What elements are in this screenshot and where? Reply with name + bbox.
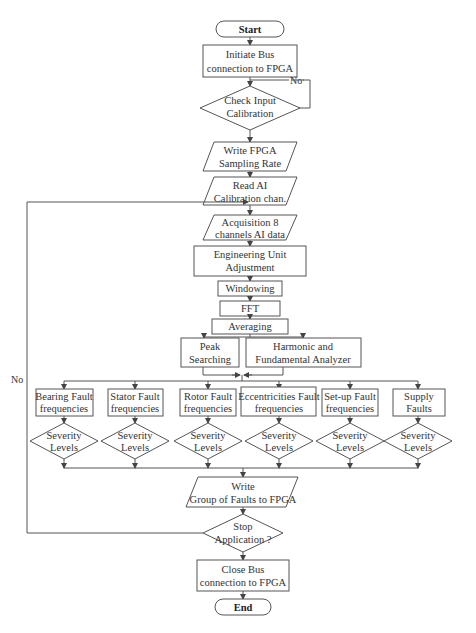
svg-text:frequencies: frequencies — [255, 403, 303, 414]
stop-application-decision: Stop Application ? — [203, 514, 283, 552]
svg-text:frequencies: frequencies — [111, 403, 159, 414]
svg-text:Set-up Fault: Set-up Fault — [324, 391, 376, 402]
write-group-faults-io: Write Group of Faults to FPGA — [186, 477, 298, 507]
svg-text:Searching: Searching — [189, 354, 232, 365]
svg-text:Adjustment: Adjustment — [226, 262, 275, 273]
svg-text:Bearing Fault: Bearing Fault — [35, 391, 93, 402]
svg-text:frequencies: frequencies — [326, 403, 374, 414]
svg-text:Fundamental Analyzer: Fundamental Analyzer — [255, 354, 351, 365]
harmonic-analyzer-box: Harmonic and Fundamental Analyzer — [246, 338, 361, 367]
svg-text:Group of Faults to FPGA: Group of Faults to FPGA — [190, 494, 297, 505]
end-terminal: End — [215, 599, 271, 615]
svg-text:Harmonic and: Harmonic and — [273, 341, 334, 352]
svg-text:Supply: Supply — [404, 391, 435, 402]
svg-text:Levels: Levels — [50, 442, 78, 453]
svg-text:channels AI data: channels AI data — [215, 229, 285, 240]
svg-text:Faults: Faults — [406, 403, 432, 414]
svg-text:Initiate Bus: Initiate Bus — [226, 49, 275, 60]
svg-text:Check Input: Check Input — [224, 95, 276, 106]
read-ai-calibration-io: Read AI Calibration chan. — [203, 177, 297, 205]
svg-text:Severity: Severity — [262, 430, 298, 441]
flowchart: Start Initiate Bus connection to FPGA No… — [0, 0, 476, 633]
svg-text:frequencies: frequencies — [40, 403, 88, 414]
svg-text:Stop: Stop — [233, 521, 252, 532]
svg-text:Eccentricities Fault: Eccentricities Fault — [238, 391, 319, 402]
svg-text:Application ?: Application ? — [215, 534, 272, 545]
severity-decision-bearing: Severity Levels — [30, 423, 98, 459]
svg-text:Severity: Severity — [333, 430, 369, 441]
severity-decision-rotor: Severity Levels — [174, 423, 242, 459]
svg-text:Peak: Peak — [200, 341, 221, 352]
svg-text:Levels: Levels — [121, 442, 149, 453]
fault-eccentricities-box: Eccentricities Fault frequencies — [238, 387, 319, 416]
write-sampling-rate-io: Write FPGA Sampling Rate — [203, 142, 297, 171]
svg-text:Severity: Severity — [118, 430, 154, 441]
svg-text:End: End — [234, 602, 253, 613]
close-bus-box: Close Bus connection to FPGA — [197, 560, 289, 591]
svg-text:Calibration: Calibration — [226, 108, 274, 119]
svg-text:Stator Fault: Stator Fault — [110, 391, 159, 402]
svg-text:Engineering Unit: Engineering Unit — [214, 249, 287, 260]
fault-bearing-box: Bearing Fault frequencies — [35, 389, 93, 416]
svg-text:Windowing: Windowing — [225, 283, 275, 294]
svg-text:Levels: Levels — [265, 442, 293, 453]
svg-text:Rotor Fault: Rotor Fault — [184, 391, 232, 402]
engineering-unit-box: Engineering Unit Adjustment — [194, 246, 306, 276]
svg-text:Levels: Levels — [336, 442, 364, 453]
initiate-bus-box: Initiate Bus connection to FPGA — [203, 45, 297, 77]
svg-text:FFT: FFT — [241, 303, 260, 314]
fault-rotor-box: Rotor Fault frequencies — [180, 389, 236, 416]
severity-decision-setup: Severity Levels — [316, 423, 384, 459]
averaging-box: Averaging — [212, 319, 288, 334]
svg-text:Averaging: Averaging — [228, 321, 272, 332]
svg-text:Start: Start — [239, 24, 262, 35]
peak-searching-box: Peak Searching — [181, 338, 239, 367]
svg-text:Severity: Severity — [401, 430, 437, 441]
svg-text:Close Bus: Close Bus — [222, 564, 265, 575]
svg-text:Write FPGA: Write FPGA — [224, 145, 277, 156]
svg-text:Severity: Severity — [191, 430, 227, 441]
no-label-stop: No — [11, 374, 23, 385]
svg-text:Sampling Rate: Sampling Rate — [219, 158, 281, 169]
svg-text:Levels: Levels — [194, 442, 222, 453]
severity-decision-stator: Severity Levels — [101, 423, 169, 459]
svg-text:connection to FPGA: connection to FPGA — [207, 63, 294, 74]
fft-box: FFT — [220, 301, 280, 316]
svg-text:connection to FPGA: connection to FPGA — [200, 577, 287, 588]
severity-decision-supply: Severity Levels — [384, 423, 452, 459]
svg-text:Read AI: Read AI — [233, 180, 268, 191]
fault-supply-box: Supply Faults — [393, 389, 445, 416]
fault-stator-box: Stator Fault frequencies — [108, 389, 163, 416]
svg-text:Acquisition 8: Acquisition 8 — [222, 217, 279, 228]
start-terminal: Start — [216, 21, 284, 37]
svg-text:Severity: Severity — [47, 430, 83, 441]
severity-decision-eccentricities: Severity Levels — [245, 423, 313, 459]
windowing-box: Windowing — [218, 281, 282, 296]
svg-text:Write: Write — [231, 481, 255, 492]
acquisition-io: Acquisition 8 channels AI data — [203, 215, 297, 240]
svg-text:frequencies: frequencies — [184, 403, 232, 414]
svg-text:Levels: Levels — [404, 442, 432, 453]
fault-setup-box: Set-up Fault frequencies — [322, 389, 378, 416]
check-calibration-decision: Check Input Calibration — [200, 86, 300, 130]
